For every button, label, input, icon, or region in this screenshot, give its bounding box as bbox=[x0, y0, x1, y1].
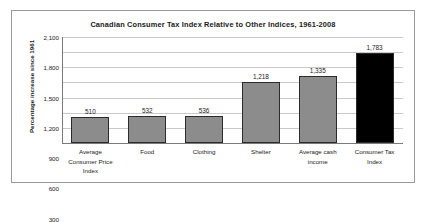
x-axis-category-label: AverageConsumer PriceIndex bbox=[62, 147, 119, 176]
x-axis-category-line: income bbox=[289, 157, 346, 167]
bar-value-label: 1,335 bbox=[310, 67, 326, 74]
x-axis-category-line: Index bbox=[346, 157, 403, 167]
chart-frame: Canadian Consumer Tax Index Relative to … bbox=[11, 10, 415, 183]
bar-slot: 1,335 bbox=[289, 37, 346, 143]
bar-slot: 536 bbox=[176, 37, 233, 143]
bar[interactable] bbox=[185, 116, 223, 143]
x-axis-category-line: Average cash bbox=[289, 147, 346, 157]
bar-slot: 532 bbox=[119, 37, 176, 143]
bar[interactable] bbox=[242, 82, 280, 143]
y-tick-label: 2,100 bbox=[19, 34, 59, 41]
x-axis-category-label: Shelter bbox=[233, 147, 290, 157]
y-tick-label: 1,200 bbox=[19, 124, 59, 131]
bar-value-label: 1,218 bbox=[253, 73, 269, 80]
bar[interactable] bbox=[299, 76, 337, 143]
bar-value-label: 536 bbox=[199, 107, 210, 114]
x-axis-category-line: Shelter bbox=[233, 147, 290, 157]
x-axis-category-line: Average bbox=[62, 147, 119, 157]
x-axis-category-line: Clothing bbox=[176, 147, 233, 157]
bar-slot: 510 bbox=[62, 37, 119, 143]
x-axis-labels: AverageConsumer PriceIndexFoodClothingSh… bbox=[62, 147, 403, 185]
x-axis-category-line: Consumer Tax bbox=[346, 147, 403, 157]
x-axis-category-line: Consumer Price bbox=[62, 157, 119, 167]
bar-value-label: 1,783 bbox=[367, 44, 383, 51]
x-axis-category-label: Food bbox=[119, 147, 176, 157]
bar[interactable] bbox=[71, 117, 109, 143]
y-tick-label: 900 bbox=[19, 155, 59, 162]
x-axis-category-label: Clothing bbox=[176, 147, 233, 157]
y-tick-label: 1,500 bbox=[19, 94, 59, 101]
x-axis-category-line: Food bbox=[119, 147, 176, 157]
x-axis-category-label: Consumer TaxIndex bbox=[346, 147, 403, 166]
bar-slot: 1,218 bbox=[233, 37, 290, 143]
bar[interactable] bbox=[128, 116, 166, 143]
x-axis-category-label: Average cashincome bbox=[289, 147, 346, 166]
bar-slot: 1,783 bbox=[346, 37, 403, 143]
plot-area: 03006009001,2001,5001,8002,100 510532536… bbox=[62, 37, 403, 143]
chart-title: Canadian Consumer Tax Index Relative to … bbox=[12, 20, 414, 29]
bar-value-label: 510 bbox=[85, 108, 96, 115]
bars-layer: 5105325361,2181,3351,783 bbox=[62, 37, 403, 143]
y-tick-label: 1,800 bbox=[19, 64, 59, 71]
gridline: 0 bbox=[62, 143, 403, 144]
y-tick-label: 600 bbox=[19, 185, 59, 192]
x-axis-category-line: Index bbox=[62, 166, 119, 176]
bar[interactable] bbox=[356, 53, 394, 143]
y-axis-title: Percentage increase since 1961 bbox=[28, 35, 35, 139]
bar-value-label: 532 bbox=[142, 107, 153, 114]
